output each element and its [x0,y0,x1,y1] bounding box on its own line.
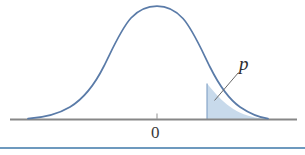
p-leader-line-icon [215,73,239,101]
tail-area-label: p [239,54,249,73]
origin-axis-label: 0 [151,124,160,141]
normal-distribution-figure: 0 p [0,0,305,155]
shaded-tail-area [207,84,268,120]
bell-curve-path [28,6,268,119]
